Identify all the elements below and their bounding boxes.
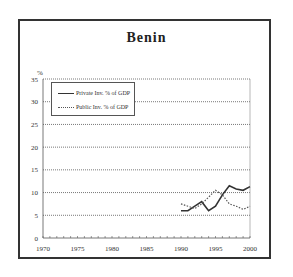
svg-text:5: 5 <box>35 212 39 220</box>
svg-text:15: 15 <box>31 166 39 174</box>
solid-line-icon <box>58 93 74 94</box>
svg-text:2000: 2000 <box>243 245 258 253</box>
legend-item-private: Private Inv. % of GDP <box>58 90 130 96</box>
svg-text:0: 0 <box>35 235 39 243</box>
svg-text:30: 30 <box>31 98 39 106</box>
plot-area: 05101520253035 1970197519801985199019952… <box>0 0 293 277</box>
svg-text:1975: 1975 <box>71 245 86 253</box>
svg-text:1980: 1980 <box>105 245 120 253</box>
legend-label-public: Public Inv. % of GDP <box>76 104 128 110</box>
x-axis-labels: 1970197519801985199019952000 <box>36 245 258 253</box>
svg-text:1985: 1985 <box>140 245 155 253</box>
y-axis-labels: 05101520253035 <box>31 76 39 243</box>
data-lines <box>181 186 250 211</box>
svg-text:1990: 1990 <box>174 245 189 253</box>
legend-item-public: Public Inv. % of GDP <box>58 104 128 110</box>
svg-text:10: 10 <box>31 189 39 197</box>
svg-text:1970: 1970 <box>36 245 51 253</box>
svg-text:25: 25 <box>31 121 39 129</box>
svg-text:20: 20 <box>31 144 39 152</box>
dotted-line-icon <box>58 107 74 108</box>
private-investment-line <box>181 186 250 211</box>
y-axis-unit: % <box>37 69 43 77</box>
legend-label-private: Private Inv. % of GDP <box>76 90 130 96</box>
legend: Private Inv. % of GDP Public Inv. % of G… <box>51 82 135 116</box>
svg-text:1995: 1995 <box>209 245 224 253</box>
